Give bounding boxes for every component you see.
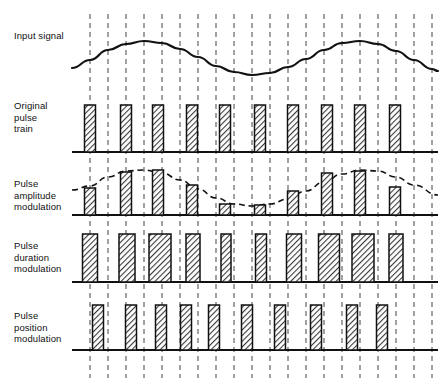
modulation-diagram-svg [0, 0, 441, 389]
pulse-1-2 [153, 105, 164, 152]
pulse-4-7 [311, 305, 322, 350]
pulse-3-4 [221, 234, 231, 282]
pulse-3-0 [83, 234, 98, 282]
pulse-2-7 [322, 173, 333, 215]
pulse-4-6 [275, 305, 286, 350]
row-label-pulse-amplitude-modulation: Pulse amplitude modulation [14, 178, 61, 213]
row-label-pulse-duration-modulation: Pulse duration modulation [14, 240, 61, 275]
input-signal-waveform [72, 41, 438, 75]
pulse-3-1 [119, 234, 135, 282]
pulse-3-3 [186, 234, 200, 282]
pulse-2-4 [220, 204, 231, 215]
row-label-pulse-position-modulation: Pulse position modulation [14, 310, 61, 345]
pulse-2-6 [288, 191, 299, 215]
pulse-1-9 [390, 105, 401, 152]
pulse-1-7 [322, 105, 333, 152]
pulse-1-5 [255, 105, 266, 152]
signal-rows [72, 41, 438, 350]
pulse-3-6 [287, 234, 302, 282]
pulse-4-3 [181, 305, 192, 350]
pulse-2-1 [121, 172, 132, 215]
pulse-2-2 [153, 170, 164, 215]
pulse-4-0 [93, 305, 104, 350]
pulse-2-9 [390, 187, 401, 215]
pulse-3-8 [352, 234, 374, 282]
pulse-4-9 [377, 305, 388, 350]
pulse-4-4 [209, 305, 220, 350]
pulse-modulation-figure: Input signal Original pulse train Pulse … [0, 0, 441, 389]
pulse-1-3 [187, 105, 198, 152]
row-label-original-pulse-train: Original pulse train [14, 100, 48, 135]
pulse-2-8 [355, 171, 366, 215]
pulse-4-1 [126, 305, 137, 350]
pulse-1-8 [355, 105, 366, 152]
pulse-3-9 [389, 234, 403, 282]
pulse-3-7 [319, 234, 340, 282]
pulse-2-5 [255, 205, 266, 215]
pulse-4-5 [242, 305, 253, 350]
pulse-1-1 [121, 105, 132, 152]
pulse-4-2 [156, 305, 167, 350]
pulse-1-0 [85, 105, 96, 152]
pulse-3-5 [256, 234, 267, 282]
pulse-2-3 [187, 185, 198, 215]
pulse-3-2 [149, 234, 171, 282]
pulse-2-0 [85, 188, 96, 215]
row-label-input-signal: Input signal [14, 30, 64, 42]
pulse-1-6 [288, 105, 299, 152]
pulse-4-8 [347, 305, 358, 350]
pulse-1-4 [220, 105, 231, 152]
